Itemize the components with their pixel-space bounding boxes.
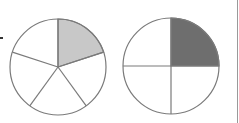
divider-line: [30, 67, 58, 106]
fraction-circles-diagram: [0, 0, 239, 123]
shaded-quarter: [171, 18, 219, 66]
divider-line: [58, 67, 86, 106]
border-edge: [237, 0, 238, 123]
divider-line: [12, 52, 58, 67]
quarters-circle: [123, 18, 219, 114]
fifths-circle: [10, 19, 106, 115]
